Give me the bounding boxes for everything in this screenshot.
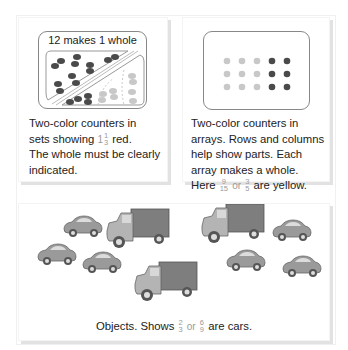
fraction-9-15: 915 bbox=[220, 178, 228, 192]
whole-box: 12 makes 1 whole bbox=[38, 31, 147, 109]
cars-and-trucks-illustration bbox=[19, 204, 331, 314]
caption-objects: Objects. Shows 23 or 69 are cars. bbox=[19, 319, 329, 335]
panel-objects: Objects. Shows 23 or 69 are cars. bbox=[18, 203, 330, 341]
panel-arrays: Two-color counters in arrays. Rows and c… bbox=[182, 17, 330, 182]
box-label: 12 makes 1 whole bbox=[39, 34, 146, 46]
fraction-3-5: 35 bbox=[245, 178, 249, 192]
fraction-2-3: 23 bbox=[179, 319, 183, 333]
caption-sets: Two-color counters in sets showing 113 r… bbox=[29, 116, 169, 178]
array-box bbox=[203, 31, 310, 110]
counter-array-illustration bbox=[204, 32, 308, 108]
panel-sets: 12 makes 1 whole bbox=[18, 17, 168, 182]
caption-arrays: Two-color counters in arrays. Rows and c… bbox=[191, 116, 331, 194]
counter-sets-illustration bbox=[40, 48, 146, 108]
fraction-6-9: 69 bbox=[200, 319, 204, 333]
mixed-number: 113 bbox=[97, 134, 109, 145]
